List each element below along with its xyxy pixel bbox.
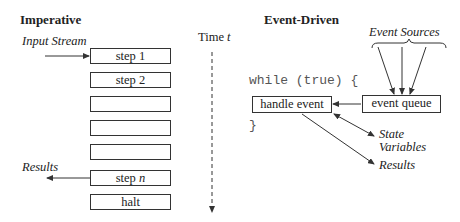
step-box-1: step 1: [90, 48, 171, 64]
event-queue-box: event queue: [362, 95, 441, 113]
step-box-n: step n: [90, 170, 171, 186]
step-box-2: step 2: [90, 72, 171, 88]
imperative-title: Imperative: [20, 12, 81, 28]
step-box-4: [90, 120, 171, 136]
input-stream-label: Input Stream: [22, 34, 86, 49]
state-variables-label: StateVariables: [379, 128, 426, 154]
handle-event-box: handle event: [252, 96, 332, 113]
event-driven-title: Event-Driven: [264, 12, 339, 28]
loop-close-code: }: [249, 118, 257, 133]
sources-brace: [372, 39, 446, 48]
halt-box: halt: [90, 194, 171, 210]
time-label: Time t: [198, 30, 231, 45]
step-box-5: [90, 144, 171, 160]
step-box-3: [90, 96, 171, 112]
step-n-label: step n: [116, 171, 146, 185]
event-sources-label: Event Sources: [369, 25, 440, 40]
event-results-label: Results: [379, 158, 415, 173]
imperative-results-label: Results: [22, 160, 58, 175]
loop-open-code: while (true) {: [249, 73, 358, 88]
